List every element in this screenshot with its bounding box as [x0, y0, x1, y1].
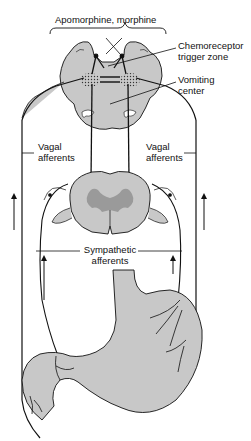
- label-sympathetic-line2: afferents: [82, 255, 138, 266]
- label-vagal-right-line1: Vagal: [146, 141, 170, 152]
- label-vagal-left-line1: Vagal: [38, 141, 62, 152]
- label-ctz-line1: Chemoreceptor: [178, 40, 243, 51]
- label-drugs: Apomorphine, morphine: [55, 14, 156, 25]
- brainstem: [60, 42, 162, 130]
- label-vc-line1: Vomiting: [178, 74, 214, 85]
- label-ctz-line2: trigger zone: [178, 51, 228, 62]
- vomiting-pathway-diagram: [0, 0, 251, 441]
- label-vagal-right-line2: afferents: [146, 152, 183, 163]
- stomach: [22, 270, 202, 420]
- label-sympathetic-line1: Sympathetic: [82, 244, 138, 255]
- label-vc-line2: center: [178, 85, 204, 96]
- drug-bracket: [50, 22, 166, 54]
- spinal-cord: [44, 171, 176, 234]
- label-vagal-left-line2: afferents: [38, 152, 75, 163]
